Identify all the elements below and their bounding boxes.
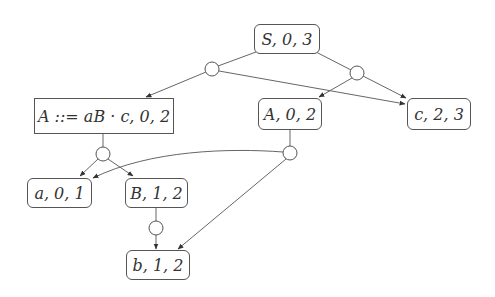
packed-node-p1 [205,62,219,76]
node-a-item-0-2: A ::= aB · c, 0, 2 [34,98,174,134]
diagram-canvas [0,0,495,297]
node-label: c, 2, 3 [414,105,464,124]
packed-node-p4 [283,146,297,160]
node-label: S, 0, 3 [261,30,312,49]
node-label: a, 0, 1 [34,184,84,203]
edges-layer [80,52,406,249]
node-s-0-3: S, 0, 3 [254,24,320,54]
node-b-upper-1-2: B, 1, 2 [125,178,188,208]
packed-nodes-layer [96,62,364,235]
node-label: B, 1, 2 [130,184,182,203]
packed-node-p3 [96,147,110,161]
edge-p2-c23 [363,76,406,98]
node-label: A, 0, 2 [264,105,316,124]
edge-p1-aitem [146,72,206,97]
edge-s03-p1 [218,52,256,66]
node-a-0-2: A, 0, 2 [258,98,322,130]
edge-s03-p2 [316,52,351,70]
edge-p3-a01 [80,159,98,176]
node-c-2-3: c, 2, 3 [407,98,471,130]
edge-p4-a01 [93,150,283,178]
node-b-lower-1-2: b, 1, 2 [126,250,190,280]
packed-node-p5 [149,221,163,235]
node-a-0-1: a, 0, 1 [27,178,92,208]
edge-p4-b12 [178,159,286,249]
packed-node-p2 [350,66,364,80]
edge-p3-b12 [108,159,133,176]
node-label: b, 1, 2 [133,256,184,275]
node-label: A ::= aB · c, 0, 2 [38,107,170,126]
